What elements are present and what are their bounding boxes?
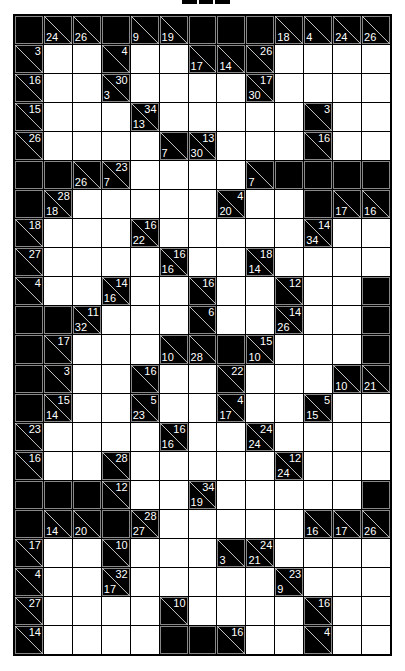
entry-cell[interactable] [275,539,303,567]
entry-cell[interactable] [304,365,332,393]
entry-cell[interactable] [217,306,245,334]
entry-cell[interactable] [246,452,274,480]
entry-cell[interactable] [333,103,361,131]
entry-cell[interactable] [160,394,188,422]
entry-cell[interactable] [189,539,217,567]
entry-cell[interactable] [73,394,101,422]
entry-cell[interactable] [160,481,188,509]
entry-cell[interactable] [131,277,159,305]
entry-cell[interactable] [333,74,361,102]
entry-cell[interactable] [160,219,188,247]
entry-cell[interactable] [246,306,274,334]
entry-cell[interactable] [217,423,245,451]
entry-cell[interactable] [333,335,361,363]
entry-cell[interactable] [217,452,245,480]
entry-cell[interactable] [333,568,361,596]
entry-cell[interactable] [275,481,303,509]
entry-cell[interactable] [333,132,361,160]
entry-cell[interactable] [131,132,159,160]
entry-cell[interactable] [44,568,72,596]
entry-cell[interactable] [131,597,159,625]
entry-cell[interactable] [275,190,303,218]
entry-cell[interactable] [73,132,101,160]
entry-cell[interactable] [217,597,245,625]
entry-cell[interactable] [131,74,159,102]
entry-cell[interactable] [44,626,72,654]
entry-cell[interactable] [131,452,159,480]
entry-cell[interactable] [73,423,101,451]
entry-cell[interactable] [44,45,72,73]
entry-cell[interactable] [362,597,390,625]
entry-cell[interactable] [160,103,188,131]
entry-cell[interactable] [304,277,332,305]
entry-cell[interactable] [44,74,72,102]
entry-cell[interactable] [275,74,303,102]
entry-cell[interactable] [160,161,188,189]
entry-cell[interactable] [333,45,361,73]
entry-cell[interactable] [131,626,159,654]
entry-cell[interactable] [362,45,390,73]
entry-cell[interactable] [160,568,188,596]
entry-cell[interactable] [102,597,130,625]
entry-cell[interactable] [246,219,274,247]
entry-cell[interactable] [189,510,217,538]
entry-cell[interactable] [217,481,245,509]
entry-cell[interactable] [275,597,303,625]
entry-cell[interactable] [304,452,332,480]
entry-cell[interactable] [102,423,130,451]
entry-cell[interactable] [217,568,245,596]
entry-cell[interactable] [275,219,303,247]
entry-cell[interactable] [246,103,274,131]
entry-cell[interactable] [189,568,217,596]
entry-cell[interactable] [362,626,390,654]
entry-cell[interactable] [102,219,130,247]
entry-cell[interactable] [189,452,217,480]
entry-cell[interactable] [275,510,303,538]
entry-cell[interactable] [333,219,361,247]
entry-cell[interactable] [189,423,217,451]
entry-cell[interactable] [102,190,130,218]
entry-cell[interactable] [333,597,361,625]
entry-cell[interactable] [73,539,101,567]
entry-cell[interactable] [362,423,390,451]
entry-cell[interactable] [304,481,332,509]
entry-cell[interactable] [217,103,245,131]
entry-cell[interactable] [362,219,390,247]
entry-cell[interactable] [44,132,72,160]
entry-cell[interactable] [160,45,188,73]
entry-cell[interactable] [160,306,188,334]
entry-cell[interactable] [304,423,332,451]
entry-cell[interactable] [73,277,101,305]
entry-cell[interactable] [304,306,332,334]
entry-cell[interactable] [275,335,303,363]
entry-cell[interactable] [275,626,303,654]
entry-cell[interactable] [160,539,188,567]
entry-cell[interactable] [160,277,188,305]
entry-cell[interactable] [102,394,130,422]
entry-cell[interactable] [102,132,130,160]
entry-cell[interactable] [362,539,390,567]
entry-cell[interactable] [131,306,159,334]
entry-cell[interactable] [131,161,159,189]
entry-cell[interactable] [160,190,188,218]
entry-cell[interactable] [217,161,245,189]
entry-cell[interactable] [189,248,217,276]
entry-cell[interactable] [362,568,390,596]
entry-cell[interactable] [73,626,101,654]
entry-cell[interactable] [333,423,361,451]
entry-cell[interactable] [333,452,361,480]
entry-cell[interactable] [246,277,274,305]
entry-cell[interactable] [362,74,390,102]
entry-cell[interactable] [333,248,361,276]
entry-cell[interactable] [189,103,217,131]
entry-cell[interactable] [217,248,245,276]
entry-cell[interactable] [333,539,361,567]
entry-cell[interactable] [304,539,332,567]
entry-cell[interactable] [131,190,159,218]
entry-cell[interactable] [131,335,159,363]
entry-cell[interactable] [102,103,130,131]
entry-cell[interactable] [73,219,101,247]
entry-cell[interactable] [304,335,332,363]
entry-cell[interactable] [160,510,188,538]
entry-cell[interactable] [189,190,217,218]
